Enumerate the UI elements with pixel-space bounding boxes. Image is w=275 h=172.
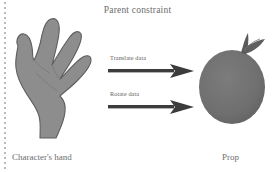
arrow-right-icon-rotate	[108, 99, 196, 115]
arrow-label-translate: Translate data	[110, 54, 146, 61]
arrow-label-rotate: Rotate data	[110, 90, 139, 97]
hand-silhouette-icon	[10, 13, 102, 139]
apple-silhouette-icon	[196, 24, 272, 134]
parent-constraint-diagram: Parent constraint Translate data	[0, 0, 275, 172]
caption-prop: Prop	[222, 152, 239, 162]
dotted-line-icon	[4, 2, 6, 170]
arrow-right-icon-translate	[108, 63, 196, 79]
caption-character-hand: Character's hand	[12, 152, 72, 162]
